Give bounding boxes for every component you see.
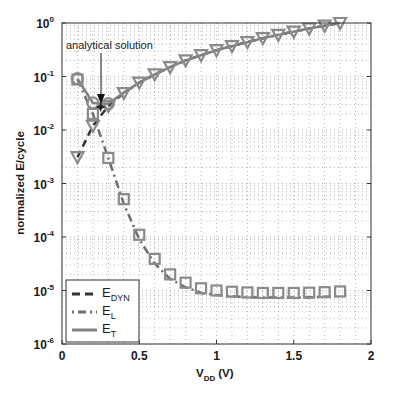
annotation-text: analytical solution: [66, 39, 153, 51]
energy-vs-vdd-chart: 00.511.5210010-110-210-310-410-510-6 ana…: [0, 0, 395, 395]
x-axis-title: VDD(V): [196, 367, 234, 383]
x-tick-label: 0.5: [131, 349, 148, 363]
x-axis-label: VDD(V): [196, 367, 234, 383]
y-tick-label: 100: [36, 15, 54, 31]
y-axis-title: normalized E/cycle: [14, 131, 26, 235]
x-axis-title-sub: DD: [204, 374, 216, 383]
y-tick-label: 10-4: [34, 229, 55, 245]
series-line: [78, 23, 341, 104]
y-axis-label: normalized E/cycle: [14, 131, 26, 235]
x-tick-label: 2: [368, 349, 375, 363]
series-layer: [71, 18, 346, 298]
series-line: [78, 80, 341, 298]
series-e-l: [78, 80, 341, 298]
x-axis-title-unit: (V): [218, 367, 234, 379]
y-tick-label: 10-5: [34, 283, 55, 299]
analytical-solution-annotation: analytical solution: [66, 39, 153, 104]
y-tick-label: 10-6: [34, 336, 55, 352]
x-tick-label: 0: [59, 349, 66, 363]
y-tick-label: 10-2: [34, 122, 55, 138]
triangle-marker: [71, 152, 83, 163]
series-e-t: [78, 23, 341, 104]
legend: EDYN EL ET: [66, 280, 139, 342]
x-tick-label: 1: [213, 349, 220, 363]
triangle-marker: [87, 121, 99, 132]
y-tick-label: 10-1: [34, 69, 55, 85]
x-tick-label: 1.5: [285, 349, 302, 363]
y-tick-label: 10-3: [34, 176, 55, 192]
